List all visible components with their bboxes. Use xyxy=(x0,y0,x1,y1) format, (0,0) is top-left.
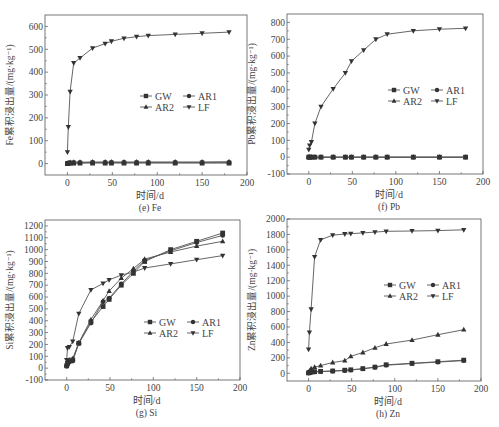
x-tick-label: 0 xyxy=(65,178,70,188)
legend-label-gw: GW xyxy=(403,85,420,96)
x-tick-label: 200 xyxy=(476,177,491,187)
y-tick-label: 0 xyxy=(280,369,285,379)
marker-circle xyxy=(330,369,335,374)
chart-panel-g: 050100150200-100010020030040050060070080… xyxy=(4,220,247,419)
marker-triangle-down xyxy=(77,56,82,61)
y-tick-label: 800 xyxy=(271,18,286,28)
marker-circle xyxy=(435,360,440,365)
y-tick-label: 600 xyxy=(271,322,286,332)
marker-triangle-down xyxy=(90,46,95,51)
marker-square xyxy=(392,88,396,92)
y-tick-label: 0 xyxy=(38,363,43,373)
marker-triangle-down xyxy=(306,347,311,352)
y-tick-label: 100 xyxy=(271,136,286,146)
y-axis-label: Zn累积浸出量/(mg·kg⁻¹) xyxy=(246,249,258,351)
y-tick-label: 1000 xyxy=(24,245,43,255)
y-tick-label: 1100 xyxy=(24,233,43,243)
series-ar2 xyxy=(64,238,225,366)
marker-triangle-up xyxy=(461,327,466,332)
y-tick-label: 400 xyxy=(271,338,286,348)
x-tick-label: 150 xyxy=(432,177,447,187)
x-tick-label: 150 xyxy=(195,178,210,188)
marker-triangle-down xyxy=(71,61,76,66)
x-tick-label: 50 xyxy=(347,384,357,394)
x-tick-label: 200 xyxy=(474,384,489,394)
marker-circle xyxy=(342,368,347,373)
y-tick-label: 700 xyxy=(271,35,286,45)
marker-triangle-down xyxy=(312,255,317,260)
marker-circle xyxy=(107,296,112,301)
y-tick-label: -100 xyxy=(26,375,44,385)
x-tick-label: 100 xyxy=(388,384,403,394)
marker-triangle-down xyxy=(318,105,323,110)
panel-title: (e) Fe xyxy=(139,203,161,214)
chart-panel-f: 050100150200-100010020030040050060070080… xyxy=(246,14,490,213)
y-tick-label: 700 xyxy=(29,280,44,290)
marker-square xyxy=(148,320,152,324)
x-tick-label: 100 xyxy=(389,177,404,187)
series-gw xyxy=(64,231,225,369)
marker-triangle-down xyxy=(307,330,312,335)
panel-title: (f) Pb xyxy=(378,202,400,213)
y-tick-label: 1000 xyxy=(266,291,285,301)
legend-label-ar1: AR1 xyxy=(202,317,221,328)
y-tick-label: -100 xyxy=(268,169,286,179)
x-tick-label: 0 xyxy=(306,177,311,187)
x-tick-label: 50 xyxy=(348,177,358,187)
marker-triangle-up xyxy=(220,238,225,243)
y-tick-label: 800 xyxy=(271,307,286,317)
legend-label-ar2: AR2 xyxy=(159,328,178,339)
x-tick-label: 150 xyxy=(190,383,205,393)
x-tick-label: 0 xyxy=(64,383,69,393)
y-tick-label: 600 xyxy=(271,51,286,61)
marker-triangle-up xyxy=(342,358,347,363)
legend-label-ar2: AR2 xyxy=(155,102,174,113)
y-tick-label: 500 xyxy=(29,45,44,55)
legend: GWAR1AR2LF xyxy=(384,280,461,302)
legend-label-ar2: AR2 xyxy=(403,96,422,107)
y-tick-label: 1400 xyxy=(266,261,285,271)
marker-triangle-down xyxy=(67,90,72,95)
x-axis-label: 时间/d xyxy=(136,189,164,201)
marker-circle xyxy=(348,368,353,373)
legend: GWAR1AR2LF xyxy=(388,85,465,107)
legend-label-gw: GW xyxy=(159,317,176,328)
y-tick-label: 1600 xyxy=(266,245,285,255)
legend-label-ar1: AR1 xyxy=(442,280,461,291)
x-axis-label: 时间/d xyxy=(133,394,161,406)
x-tick-label: 200 xyxy=(233,383,248,393)
marker-circle xyxy=(360,366,365,371)
series-ar1 xyxy=(64,233,225,369)
marker-triangle-down xyxy=(76,312,81,317)
x-tick-label: 100 xyxy=(150,178,165,188)
legend-label-lf: LF xyxy=(202,328,214,339)
y-tick-label: 900 xyxy=(29,257,44,267)
legend-label-gw: GW xyxy=(155,91,172,102)
marker-triangle-down xyxy=(312,122,317,127)
marker-triangle-down xyxy=(100,281,105,286)
y-tick-label: 200 xyxy=(29,113,44,123)
marker-circle xyxy=(461,358,466,363)
y-tick-label: 0 xyxy=(38,159,43,169)
panel-title: (h) Zn xyxy=(376,409,400,420)
legend-label-lf: LF xyxy=(446,96,458,107)
figure: 0501001502000100200300400500600时间/d(e) F… xyxy=(0,0,499,427)
marker-circle xyxy=(187,94,191,98)
y-tick-label: 400 xyxy=(271,85,286,95)
y-tick-label: 500 xyxy=(271,68,286,78)
y-tick-label: 500 xyxy=(29,304,44,314)
marker-triangle-down xyxy=(349,59,354,64)
series-lf xyxy=(64,254,225,363)
legend-label-gw: GW xyxy=(399,280,416,291)
marker-square xyxy=(144,94,148,98)
y-axis-label: Si累积浸出量/(mg·kg⁻¹) xyxy=(4,250,16,350)
marker-triangle-up xyxy=(131,266,136,271)
y-tick-label: 2000 xyxy=(266,214,285,224)
legend-label-lf: LF xyxy=(442,291,454,302)
legend: GWAR1AR2LF xyxy=(144,317,221,339)
marker-triangle-down xyxy=(306,148,311,153)
x-tick-label: 0 xyxy=(306,384,311,394)
marker-circle xyxy=(410,361,415,366)
marker-circle xyxy=(318,369,323,374)
marker-circle xyxy=(435,88,439,92)
